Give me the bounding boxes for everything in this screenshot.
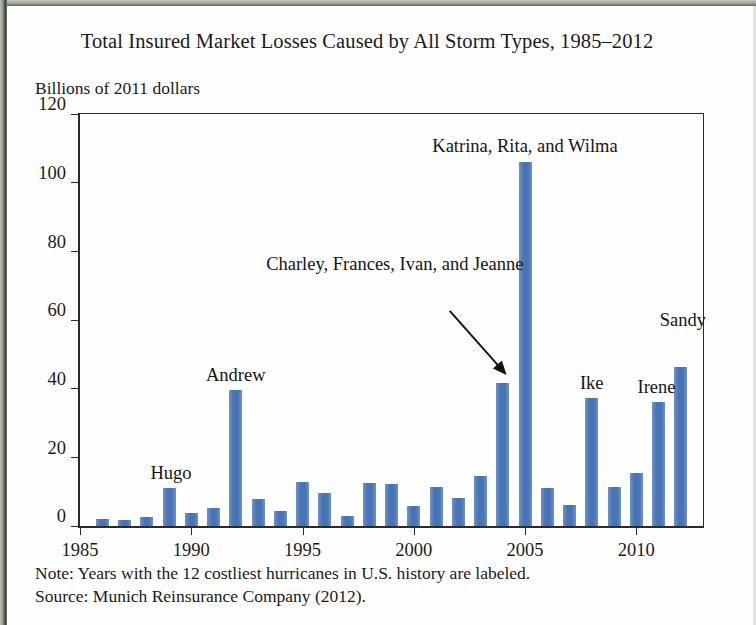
bar — [252, 499, 265, 526]
bar — [163, 488, 176, 526]
y-axis-tick — [71, 320, 80, 321]
bar — [207, 508, 220, 526]
x-axis-tick-label: 1985 — [62, 540, 99, 561]
bar — [452, 498, 465, 526]
y-axis-tick — [71, 251, 80, 252]
bar — [563, 505, 576, 526]
bar — [118, 520, 131, 526]
x-axis-tick — [191, 526, 192, 535]
bar — [341, 516, 354, 526]
bar — [229, 390, 242, 526]
footnote-note: Note: Years with the 12 costliest hurric… — [35, 562, 530, 585]
bar — [407, 506, 420, 526]
bar — [630, 473, 643, 526]
storm-annotation-label: Katrina, Rita, and Wilma — [432, 136, 617, 157]
chart-title: Total Insured Market Losses Caused by Al… — [7, 30, 727, 53]
y-axis-tick-label: 20 — [48, 437, 67, 458]
storm-annotation-label: Charley, Frances, Ivan, and Jeanne — [266, 254, 523, 275]
bar — [296, 482, 309, 526]
bar — [185, 513, 198, 526]
bar — [363, 483, 376, 526]
x-axis-tick — [414, 526, 415, 535]
x-axis-tick-label: 1995 — [284, 540, 321, 561]
x-axis-tick-label: 2005 — [507, 540, 544, 561]
y-axis-tick — [71, 114, 80, 115]
y-axis-tick — [71, 182, 80, 183]
storm-annotation-label: Irene — [638, 377, 676, 398]
y-axis-tick-label: 100 — [38, 163, 66, 184]
storm-annotation-label: Ike — [580, 373, 604, 394]
x-axis-tick-label: 2010 — [618, 540, 655, 561]
storm-annotation-label: Hugo — [150, 463, 191, 484]
bar — [541, 488, 554, 526]
y-axis-tick — [71, 457, 80, 458]
y-axis-tick-label: 0 — [57, 506, 66, 527]
bar — [430, 487, 443, 526]
bar — [474, 476, 487, 526]
y-axis-tick — [71, 388, 80, 389]
bar — [96, 519, 109, 526]
y-axis-tick-label: 40 — [48, 369, 67, 390]
x-axis-tick-label: 1990 — [173, 540, 210, 561]
x-axis-tick — [303, 526, 304, 535]
y-axis-tick-label: 60 — [48, 300, 67, 321]
bar — [652, 402, 665, 526]
x-axis-tick — [636, 526, 637, 535]
bar — [496, 383, 509, 526]
x-axis-tick — [80, 526, 81, 535]
bar — [385, 484, 398, 526]
page-edge-left — [0, 0, 7, 625]
x-axis-tick — [525, 526, 526, 535]
footnote-source: Source: Munich Reinsurance Company (2012… — [35, 585, 530, 608]
bar — [519, 162, 532, 526]
storm-annotation-label: Andrew — [206, 365, 266, 386]
y-axis-tick — [71, 526, 80, 527]
bar — [585, 398, 598, 526]
bar — [608, 487, 621, 526]
plot-frame: 020406080100120 198519901995200020052010… — [78, 113, 704, 528]
chart-figure: Total Insured Market Losses Caused by Al… — [7, 6, 753, 625]
x-axis-tick-label: 2000 — [395, 540, 432, 561]
storm-annotation-label: Sandy — [660, 310, 706, 331]
y-axis-tick-label: 120 — [38, 94, 66, 115]
footnotes: Note: Years with the 12 costliest hurric… — [35, 562, 530, 609]
bar — [318, 493, 331, 526]
bar — [140, 517, 153, 526]
bar — [274, 511, 287, 526]
bar — [674, 367, 687, 526]
y-axis-tick-label: 80 — [48, 231, 67, 252]
plot-area: 020406080100120 198519901995200020052010… — [80, 114, 703, 526]
